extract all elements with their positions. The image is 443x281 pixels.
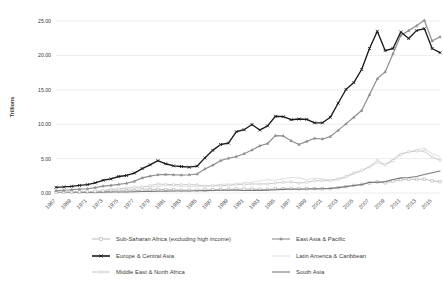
data-point-marker [219, 185, 222, 188]
x-tick-label: 1989 [216, 197, 229, 210]
data-series-group [55, 19, 442, 194]
data-point-marker [329, 179, 332, 182]
x-axis-tick-labels: 1967196919711973197519771979198119831985… [44, 197, 433, 210]
chart-legend: Sub-Saharan Africa (excluding high incom… [92, 236, 366, 275]
data-point-marker [86, 187, 89, 189]
series-latin-america-caribbean [56, 148, 440, 192]
data-point-marker [78, 188, 81, 190]
data-point-marker [415, 178, 418, 181]
y-axis-title: Trillions [9, 97, 15, 118]
x-tick-label: 1997 [279, 197, 292, 210]
data-point-marker [141, 176, 144, 178]
x-tick-label: 2005 [342, 197, 355, 210]
series-line [56, 148, 440, 192]
legend-label: Europe & Central Asia [116, 253, 175, 259]
legend-item[interactable]: East Asia & Pacific [272, 236, 345, 242]
data-point-marker [100, 271, 103, 274]
data-point-marker [157, 183, 160, 186]
data-point-marker [439, 35, 442, 37]
y-tick-label: 20.00 [38, 52, 51, 58]
x-tick-label: 1967 [44, 197, 57, 210]
line-chart: 0.005.0010.0015.0020.0025.00 Trillions 1… [0, 0, 443, 281]
y-tick-label: 5.00 [41, 156, 51, 162]
data-point-marker [227, 184, 230, 187]
series-middle-east-north-africa [55, 150, 442, 194]
data-point-marker [94, 190, 97, 193]
x-tick-label: 2001 [310, 197, 323, 210]
legend-item[interactable]: Sub-Saharan Africa (excluding high incom… [92, 236, 231, 242]
data-point-marker [211, 185, 214, 188]
data-point-marker [400, 153, 403, 156]
data-point-marker [376, 159, 379, 162]
data-point-marker [70, 188, 73, 190]
data-point-marker [125, 182, 128, 184]
data-point-marker [117, 183, 120, 185]
data-point-marker [274, 134, 277, 136]
data-point-marker [117, 188, 120, 191]
legend-item[interactable]: Europe & Central Asia [92, 253, 175, 259]
data-point-marker [157, 188, 160, 191]
x-tick-label: 2011 [389, 197, 401, 209]
data-point-marker [227, 157, 230, 159]
data-point-marker [368, 166, 371, 169]
chart-canvas: 0.005.0010.0015.0020.0025.00 Trillions 1… [0, 0, 443, 281]
data-point-marker [407, 150, 410, 153]
data-point-marker [439, 159, 442, 162]
data-point-marker [306, 140, 309, 142]
data-point-marker [280, 237, 283, 240]
data-point-marker [439, 180, 442, 183]
data-point-marker [407, 178, 410, 181]
y-tick-label: 25.00 [38, 18, 51, 24]
data-point-marker [180, 183, 183, 186]
y-axis-tick-labels: 0.005.0010.0015.0020.0025.00 [38, 18, 51, 196]
data-point-marker [321, 180, 324, 183]
data-point-marker [149, 185, 152, 188]
data-point-marker [282, 181, 285, 184]
x-tick-label: 2003 [326, 197, 339, 210]
data-point-marker [282, 134, 285, 136]
data-point-marker [423, 19, 426, 21]
data-point-marker [180, 174, 183, 176]
legend-label: South Asia [296, 269, 325, 275]
data-point-marker [164, 173, 167, 175]
series-sub-saharan-africa-excluding-high-income [55, 178, 442, 194]
data-point-marker [141, 186, 144, 189]
data-point-marker [102, 190, 105, 193]
data-point-marker [188, 183, 191, 186]
data-point-marker [345, 175, 348, 178]
data-point-marker [70, 191, 73, 194]
x-tick-label: 1979 [138, 197, 151, 210]
data-point-marker [149, 189, 152, 192]
x-tick-label: 2007 [357, 197, 370, 210]
data-point-marker [243, 183, 246, 186]
legend-item[interactable]: South Asia [272, 269, 325, 275]
x-tick-label: 1969 [60, 197, 73, 210]
data-point-marker [243, 188, 246, 191]
data-point-marker [400, 179, 403, 182]
gridlines [56, 21, 440, 193]
data-point-marker [110, 188, 113, 191]
y-axis-label-text: Trillions [9, 97, 15, 118]
legend-item[interactable]: Middle East & North Africa [92, 269, 185, 275]
data-point-marker [204, 185, 207, 188]
data-point-marker [337, 178, 340, 181]
data-point-marker [423, 150, 426, 153]
data-point-marker [149, 175, 152, 177]
data-point-marker [100, 238, 103, 241]
data-point-marker [102, 185, 105, 187]
data-point-marker [63, 189, 65, 191]
x-tick-label: 1995 [263, 197, 276, 210]
x-tick-label: 2009 [373, 197, 386, 210]
data-point-marker [259, 183, 262, 186]
x-tick-label: 1977 [122, 197, 135, 210]
data-point-marker [306, 181, 309, 184]
data-point-marker [235, 183, 238, 186]
legend-item[interactable]: Latin America & Caribbean [272, 253, 366, 259]
data-point-marker [188, 173, 191, 175]
data-point-marker [86, 190, 89, 193]
x-tick-label: 1981 [154, 197, 167, 210]
series-line [56, 151, 440, 192]
x-tick-label: 1973 [91, 197, 104, 210]
x-tick-label: 2015 [420, 197, 433, 210]
data-point-marker [431, 156, 434, 159]
